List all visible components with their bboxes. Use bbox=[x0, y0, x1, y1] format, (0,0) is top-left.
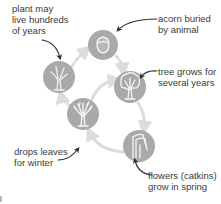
label-catkins: flowers (catkins) grow in spring bbox=[148, 170, 217, 192]
cycle-arrow-winter-to-old bbox=[61, 96, 70, 106]
cycle-arrow-old-to-acorn bbox=[72, 50, 86, 66]
pointer-acorn bbox=[118, 19, 157, 30]
stage-catkins bbox=[123, 130, 155, 162]
cycle-arrow-catkins-to-winter bbox=[90, 133, 123, 152]
cycle-arrow-acorn-to-tree bbox=[116, 56, 123, 70]
stage-winter-tree bbox=[67, 98, 99, 130]
acorn-icon bbox=[97, 37, 109, 53]
label-winter-tree: drops leaves for winter bbox=[14, 146, 68, 168]
stage-old-tree bbox=[43, 61, 75, 93]
label-young-tree: tree grows for several years bbox=[158, 66, 216, 88]
pointer-young-tree bbox=[141, 71, 157, 77]
stage-acorn bbox=[88, 30, 118, 60]
pointer-old-tree bbox=[42, 40, 60, 58]
cycle-arrow-winter-to-tree bbox=[92, 80, 115, 99]
label-old-tree: plant may live hundreds of years bbox=[12, 3, 69, 36]
cycle-arrow-tree-to-catkins bbox=[138, 103, 144, 128]
edge-mark bbox=[0, 196, 2, 202]
label-acorn: acorn buried by animal bbox=[158, 13, 211, 35]
